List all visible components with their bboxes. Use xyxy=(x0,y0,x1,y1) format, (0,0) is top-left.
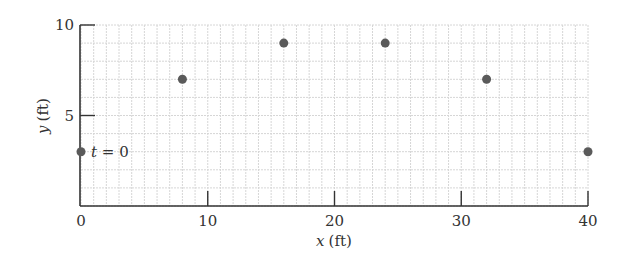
data-point xyxy=(482,75,491,84)
data-point xyxy=(178,75,187,84)
data-point xyxy=(279,39,288,48)
grid xyxy=(81,25,588,206)
time-annotation: t = 0 xyxy=(91,143,129,161)
x-tick-label: 10 xyxy=(198,212,217,230)
chart: 010203040510 t = 0 x(ft) y(ft) xyxy=(0,0,625,255)
x-tick-label: 20 xyxy=(325,212,344,230)
data-point xyxy=(77,147,86,156)
y-tick-label: 5 xyxy=(64,107,74,125)
y-axis-label: y(ft) xyxy=(34,98,52,135)
x-axis-label: x(ft) xyxy=(316,232,352,250)
x-tick-label: 30 xyxy=(452,212,471,230)
y-tick-label: 10 xyxy=(55,16,74,34)
data-point xyxy=(584,147,593,156)
ticks: 010203040510 xyxy=(55,16,598,230)
x-tick-label: 0 xyxy=(76,212,86,230)
x-tick-label: 40 xyxy=(578,212,597,230)
annotations: t = 0 xyxy=(91,143,129,161)
data-point xyxy=(381,39,390,48)
